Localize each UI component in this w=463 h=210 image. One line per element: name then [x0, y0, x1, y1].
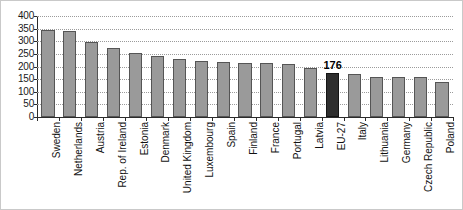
bar[interactable]: [435, 82, 448, 117]
x-axis-tick-mark: [365, 117, 366, 121]
x-axis-category-label-text: Austria: [96, 122, 106, 153]
y-axis-tick-label: 200: [18, 62, 34, 72]
x-axis-category-label: Netherlands: [74, 122, 84, 176]
x-axis-category-label: EU-27: [337, 122, 347, 150]
gridline: [37, 54, 453, 55]
x-axis-category-label-text: Portugal: [293, 122, 303, 159]
x-axis-tick-mark: [212, 117, 213, 121]
bar[interactable]: [282, 64, 295, 117]
y-axis-tick-label: 150: [18, 74, 34, 84]
x-axis-category-label: Italy: [358, 122, 368, 140]
x-axis-category-label: Poland: [446, 122, 456, 153]
x-axis-category-label-text: Latvia: [315, 122, 325, 149]
x-axis-tick-mark: [103, 117, 104, 121]
x-axis-category-label: United Kingdom: [183, 122, 193, 193]
bar[interactable]: [195, 61, 208, 117]
x-axis-category-label-text: United Kingdom: [183, 122, 193, 193]
bar[interactable]: [304, 68, 317, 117]
gridline: [37, 29, 453, 30]
x-axis-category-label-text: Spain: [227, 122, 237, 148]
plot-area: [37, 16, 453, 117]
x-axis-category-label-text: Denmark: [161, 122, 171, 163]
y-axis-tick-label: 400: [18, 11, 34, 21]
x-axis-tick-mark: [409, 117, 410, 121]
x-axis-category-label-text: Rep. of Ireland: [118, 122, 128, 188]
bar-chart: 050100150200250300350400 176 SwedenNethe…: [0, 0, 463, 210]
x-axis-category-label-text: Italy: [358, 122, 368, 140]
x-axis-tick-mark: [453, 117, 454, 121]
gridline: [37, 16, 453, 17]
x-axis-category-label-text: Finland: [249, 122, 259, 155]
x-axis-tick-mark: [278, 117, 279, 121]
x-axis-category-label: Czech Republic: [424, 122, 434, 192]
bar[interactable]: [41, 30, 54, 117]
x-axis-tick-mark: [81, 117, 82, 121]
x-axis-tick-mark: [168, 117, 169, 121]
x-axis-category-label: Portugal: [293, 122, 303, 159]
bar[interactable]: [370, 77, 383, 117]
x-axis-category-label-text: Czech Republic: [424, 122, 434, 192]
x-axis-category-label-text: France: [271, 122, 281, 153]
x-axis-category-label: Finland: [249, 122, 259, 155]
x-axis-tick-mark: [431, 117, 432, 121]
x-axis-tick-mark: [37, 117, 38, 121]
bar-data-label: 176: [323, 60, 341, 71]
x-axis-tick-mark: [190, 117, 191, 121]
y-axis-tick-labels: 050100150200250300350400: [1, 16, 34, 117]
bar[interactable]: [63, 31, 76, 117]
x-axis-category-label: Spain: [227, 122, 237, 148]
bar[interactable]: [238, 63, 251, 117]
x-axis-category-label-text: Lithuania: [380, 122, 390, 163]
x-axis-category-label: Latvia: [315, 122, 325, 149]
y-axis-tick-label: 250: [18, 49, 34, 59]
x-axis-tick-mark: [125, 117, 126, 121]
x-axis-tick-mark: [300, 117, 301, 121]
x-axis-category-labels: SwedenNetherlandsAustriaRep. of IrelandE…: [37, 122, 453, 208]
x-axis-category-label: Denmark: [161, 122, 171, 163]
y-axis-tick-label: 100: [18, 87, 34, 97]
x-axis-category-label-text: EU-27: [337, 122, 347, 150]
bar[interactable]: [217, 62, 230, 117]
bar[interactable]: [85, 42, 98, 117]
bar[interactable]: [326, 73, 339, 117]
x-axis-category-label: Lithuania: [380, 122, 390, 163]
x-axis-tick-marks: [37, 117, 453, 121]
x-axis-category-label: Germany: [402, 122, 412, 163]
y-axis-tick-label: 300: [18, 36, 34, 46]
x-axis-category-label: Sweden: [52, 122, 62, 158]
bar[interactable]: [173, 59, 186, 117]
x-axis-category-label-text: Poland: [446, 122, 456, 153]
x-axis-category-label-text: Luxembourg: [205, 122, 215, 178]
x-axis-tick-mark: [234, 117, 235, 121]
x-axis-tick-mark: [256, 117, 257, 121]
y-axis-tick-label: 50: [23, 99, 34, 109]
bar[interactable]: [348, 74, 361, 117]
x-axis-tick-mark: [387, 117, 388, 121]
bar[interactable]: [392, 77, 405, 117]
bar[interactable]: [129, 53, 142, 117]
x-axis-category-label: Austria: [96, 122, 106, 153]
x-axis-category-label: France: [271, 122, 281, 153]
bar[interactable]: [414, 77, 427, 117]
x-axis-category-label-text: Germany: [402, 122, 412, 163]
x-axis-tick-mark: [344, 117, 345, 121]
x-axis-category-label-text: Netherlands: [74, 122, 84, 176]
gridline: [37, 41, 453, 42]
x-axis-category-label: Estonia: [140, 122, 150, 155]
bar[interactable]: [107, 48, 120, 117]
x-axis-category-label: Rep. of Ireland: [118, 122, 128, 188]
y-axis-tick-label: 350: [18, 24, 34, 34]
bar[interactable]: [151, 56, 164, 117]
x-axis-tick-mark: [146, 117, 147, 121]
x-axis-category-label-text: Estonia: [140, 122, 150, 155]
x-axis-tick-mark: [322, 117, 323, 121]
x-axis-category-label: Luxembourg: [205, 122, 215, 178]
x-axis-tick-mark: [59, 117, 60, 121]
bar[interactable]: [260, 63, 273, 117]
x-axis-category-label-text: Sweden: [52, 122, 62, 158]
